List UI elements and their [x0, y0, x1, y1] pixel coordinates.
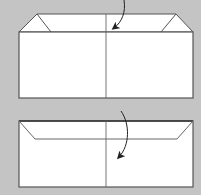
step-2-shape: [19, 111, 193, 187]
step-1-shape: [19, 0, 193, 98]
origami-diagram: [0, 0, 201, 195]
